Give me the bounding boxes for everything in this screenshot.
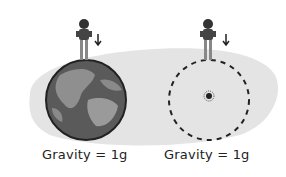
sphere-gravity-label: Gravity = 1g: [164, 147, 250, 162]
down-arrow-icon: [95, 34, 101, 45]
gravity-comparison-illustration: Gravity = 1g Gravity = 1g: [0, 0, 286, 177]
person-icon: [76, 19, 92, 60]
down-arrow-icon: [223, 34, 229, 45]
earth-icon: [46, 60, 126, 140]
earth-gravity-label: Gravity = 1g: [42, 147, 128, 162]
